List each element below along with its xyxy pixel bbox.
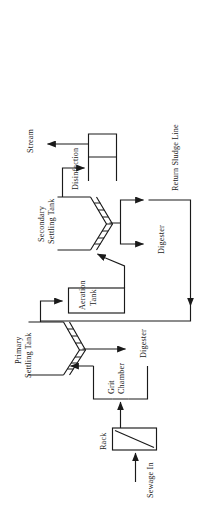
label-aeration-line2: Tank: [88, 288, 97, 306]
label-aeration-line1: Aeration: [77, 280, 86, 310]
node-secondary-settling-tank: [57, 197, 112, 250]
label-grit-chamber-line2: Chamber: [116, 363, 125, 394]
label-primary-settling-line1: Primary: [13, 336, 22, 364]
label-secondary-settling-line1: Secondary: [36, 205, 45, 242]
flow-aeration-to-secondary: [97, 254, 124, 288]
label-grit-chamber-line1: Grit: [106, 380, 115, 394]
label-rack: Rack: [98, 432, 107, 450]
figure-canvas: Sewage In Rack Grit Chamber: [0, 0, 209, 506]
label-digester-primary: Digester: [138, 329, 147, 358]
label-digester-secondary: Digester: [156, 225, 165, 254]
flow-diagram-rotated-wrapper: Sewage In Rack Grit Chamber: [0, 0, 209, 506]
label-secondary-settling-line2: Settling Tank: [46, 198, 55, 244]
node-primary-settling-tank: [28, 322, 85, 375]
flow-secondary-sludge-split: [109, 200, 143, 244]
label-disinfection: Disinfection: [70, 148, 79, 190]
flow-primary-to-aeration: [40, 301, 62, 322]
label-primary-settling-line2: Settling Tank: [23, 332, 32, 378]
label-sewage-in: Sewage In: [145, 462, 154, 498]
label-stream: Stream: [25, 128, 34, 153]
flow-return-sludge-line: [40, 200, 190, 321]
node-disinfection: [88, 134, 116, 181]
label-return-sludge-line: Return Sludge Line: [170, 124, 179, 191]
node-rack: [112, 428, 156, 450]
wastewater-flow-diagram: Sewage In Rack Grit Chamber: [0, 0, 209, 506]
